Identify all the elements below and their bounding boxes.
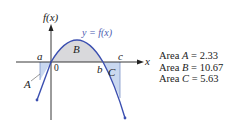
region-a-leader	[31, 74, 40, 81]
region-c-label: C	[108, 67, 115, 78]
origin-label: 0	[54, 64, 59, 74]
area-region: B	[182, 62, 188, 73]
x-axis-label: x	[145, 56, 150, 67]
area-region: C	[182, 73, 189, 84]
area-word: Area	[159, 62, 179, 73]
y-axis-arrow-icon	[49, 24, 54, 31]
curve-left-endpoint	[36, 99, 39, 102]
equals-sign: =	[192, 73, 198, 84]
equals-sign: =	[191, 62, 197, 73]
region-b-label: B	[73, 44, 80, 55]
x-axis-arrow-icon	[137, 60, 144, 65]
area-a-row: Area A = 2.33	[159, 50, 223, 62]
area-word: Area	[159, 73, 179, 84]
area-values-list: Area A = 2.33 Area B = 10.67 Area C = 5.…	[159, 50, 223, 85]
area-b-row: Area B = 10.67	[159, 62, 223, 74]
equals-sign: =	[191, 50, 197, 61]
curve-label: y = f(x)	[82, 28, 112, 38]
area-region: A	[182, 50, 188, 61]
area-value: 5.63	[200, 73, 218, 84]
area-word: Area	[159, 50, 179, 61]
curve-right-endpoint	[124, 117, 127, 120]
area-value: 10.67	[200, 62, 224, 73]
point-c-label: c	[118, 51, 123, 62]
point-a-label: a	[37, 51, 43, 62]
area-c-row: Area C = 5.63	[159, 73, 223, 85]
region-a-label: A	[24, 79, 31, 90]
y-axis-label: f(x)	[43, 12, 58, 23]
area-value: 2.33	[200, 50, 218, 61]
point-b-label: b	[97, 64, 103, 75]
